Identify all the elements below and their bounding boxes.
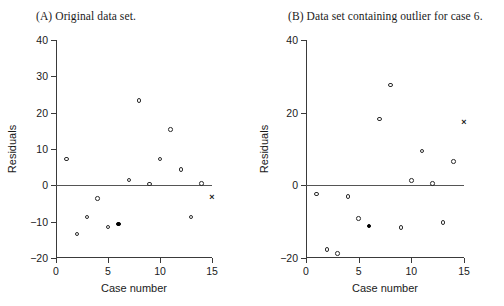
y-tick (301, 40, 306, 41)
data-point (441, 220, 446, 225)
x-tick-label: 10 (405, 265, 417, 277)
y-tick (51, 76, 56, 77)
data-point (356, 216, 361, 221)
data-point (179, 167, 184, 172)
zero-reference-line (56, 185, 212, 186)
data-point (388, 83, 393, 88)
data-point (64, 157, 69, 162)
x-tick (411, 258, 412, 263)
data-point (451, 159, 456, 164)
x-tick-label: 0 (303, 265, 309, 277)
residual-plots-figure: (A) Original data set. Residuals Case nu… (0, 0, 504, 306)
x-tick (212, 258, 213, 263)
panel-b: (B) Data set containing outlier for case… (252, 0, 504, 306)
x-tick (464, 258, 465, 263)
panel-b-y-axis (306, 40, 307, 258)
x-tick-label: 5 (105, 265, 111, 277)
x-tick-label: 15 (206, 265, 218, 277)
data-point (420, 149, 425, 154)
panel-b-x-axis (306, 257, 464, 258)
zero-reference-line (306, 185, 464, 186)
x-tick-label: 0 (53, 265, 59, 277)
data-point-x-marker: × (209, 194, 216, 201)
panel-a-y-axis-label: Residuals (6, 125, 18, 173)
y-tick-label: −10 (30, 216, 48, 228)
panel-b-title: (B) Data set containing outlier for case… (288, 10, 483, 22)
panel-a-x-axis-label: Case number (101, 282, 167, 294)
x-tick (160, 258, 161, 263)
panel-a: (A) Original data set. Residuals Case nu… (0, 0, 252, 306)
data-point (137, 98, 142, 103)
data-point (168, 127, 173, 132)
y-tick (51, 222, 56, 223)
y-tick-label: −20 (30, 252, 48, 264)
data-point (189, 215, 194, 220)
panel-b-plot-area: Residuals Case number −2002040051015× (306, 40, 464, 258)
panel-b-y-axis-label: Residuals (258, 125, 270, 173)
data-point (314, 192, 319, 197)
x-tick-label: 15 (458, 265, 470, 277)
data-point (95, 196, 100, 201)
x-tick-label: 10 (154, 265, 166, 277)
y-tick-label: −20 (280, 252, 298, 264)
panel-b-x-axis-label: Case number (352, 282, 418, 294)
y-tick-label: 0 (42, 179, 48, 191)
x-tick-label: 5 (356, 265, 362, 277)
data-point-x-marker: × (461, 119, 468, 126)
y-tick-label: 30 (36, 70, 48, 82)
x-tick (108, 258, 109, 263)
data-point-highlighted (367, 224, 372, 229)
data-point (85, 215, 90, 220)
data-point (399, 225, 404, 230)
x-tick (56, 258, 57, 263)
data-point (127, 178, 132, 183)
y-tick-label: 20 (286, 107, 298, 119)
x-tick (359, 258, 360, 263)
y-tick-label: 10 (36, 143, 48, 155)
data-point (335, 251, 340, 256)
x-tick (306, 258, 307, 263)
y-tick (51, 40, 56, 41)
y-tick (51, 113, 56, 114)
y-tick-label: 0 (292, 179, 298, 191)
y-tick-label: 20 (36, 107, 48, 119)
data-point (377, 117, 382, 122)
data-point (346, 194, 351, 199)
panel-a-y-axis (56, 40, 57, 258)
data-point (75, 232, 80, 237)
data-point (199, 181, 204, 186)
y-tick-label: 40 (286, 34, 298, 46)
data-point (430, 181, 435, 186)
y-tick (51, 149, 56, 150)
panel-a-plot-area: Residuals Case number −20−10010203040051… (56, 40, 212, 258)
data-point-highlighted (116, 222, 121, 227)
panel-a-title: (A) Original data set. (36, 10, 136, 22)
y-tick-label: 40 (36, 34, 48, 46)
data-point (158, 157, 163, 162)
data-point (325, 247, 330, 252)
data-point (106, 225, 111, 230)
panel-a-x-axis (56, 257, 212, 258)
data-point (409, 178, 414, 183)
y-tick (301, 113, 306, 114)
